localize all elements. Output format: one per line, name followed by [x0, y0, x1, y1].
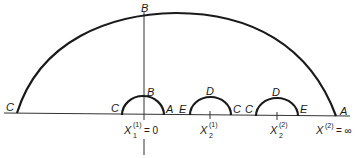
axis-label-x2-1: X (1) 2 [199, 121, 218, 139]
label-semicircle-1-top: B [147, 86, 154, 98]
label-large-arc-left: C [6, 101, 14, 113]
svg-text:X: X [123, 124, 132, 136]
label-semicircle-2-right: C [233, 103, 241, 115]
label-semicircle-1-left: C [111, 102, 119, 114]
svg-text:2: 2 [279, 132, 283, 139]
label-semicircle-3-right: E [300, 103, 308, 115]
svg-text:= 0: = 0 [144, 125, 159, 136]
semicircle-1 [122, 96, 164, 115]
label-semicircle-1-right: A [165, 103, 173, 115]
label-semicircle-2-top: D [206, 85, 214, 97]
svg-text:= ∞: = ∞ [336, 125, 352, 136]
svg-text:(2): (2) [325, 122, 334, 130]
svg-text:(1): (1) [133, 121, 142, 129]
svg-text:X: X [315, 124, 324, 136]
svg-text:X: X [269, 124, 278, 136]
svg-text:(1): (1) [209, 121, 218, 129]
svg-text:1: 1 [133, 132, 137, 139]
svg-text:X: X [199, 124, 208, 136]
axis-label-x-infinity: X (2) = ∞ [315, 122, 352, 136]
axis-label-x2-2: X (2) 2 [269, 121, 288, 139]
label-large-arc-right: A [339, 105, 347, 117]
svg-text:2: 2 [209, 132, 213, 139]
svg-text:(2): (2) [279, 121, 288, 129]
label-semicircle-3-top: D [272, 86, 280, 98]
diagram-canvas: C B A C B A E D C C D E X (1) 1 = 0 X (1… [0, 0, 361, 158]
label-semicircle-3-left: C [245, 103, 253, 115]
label-large-arc-top: B [141, 2, 148, 14]
label-semicircle-2-left: E [179, 103, 187, 115]
axis-label-x1-1: X (1) 1 = 0 [123, 121, 159, 139]
